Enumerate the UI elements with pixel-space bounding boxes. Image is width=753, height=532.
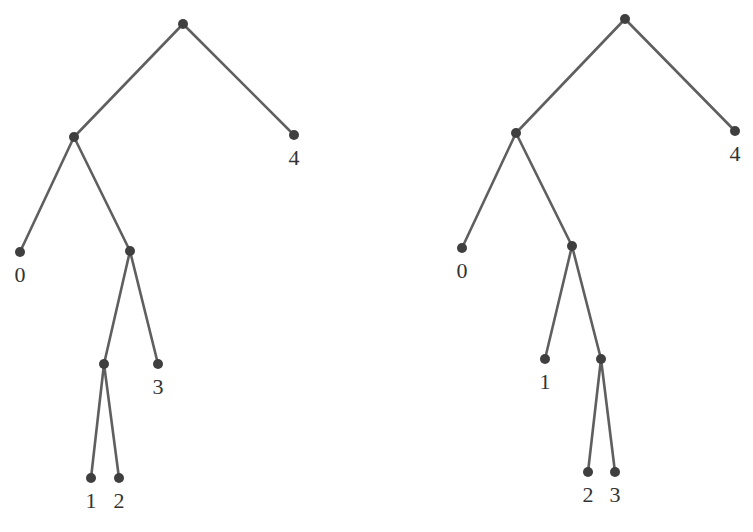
leaf-node <box>289 130 299 140</box>
leaf-label: 0 <box>457 258 468 283</box>
leaf-node <box>114 473 124 483</box>
leaf-label: 3 <box>153 374 164 399</box>
internal-node <box>178 19 188 29</box>
leaf-label: 4 <box>289 145 300 170</box>
left-tree: 40312 <box>15 19 300 513</box>
leaf-node <box>15 247 25 257</box>
leaf-node <box>610 467 620 477</box>
tree-edge <box>588 359 601 472</box>
leaf-node <box>457 243 467 253</box>
tree-edge <box>545 246 572 359</box>
leaf-label: 1 <box>86 488 97 513</box>
internal-node <box>511 128 521 138</box>
leaf-label: 1 <box>540 369 551 394</box>
tree-edge <box>462 133 516 248</box>
tree-edge <box>104 364 119 478</box>
leaf-node <box>540 354 550 364</box>
internal-node <box>596 354 606 364</box>
tree-diagram-canvas: 4031240123 <box>0 0 753 532</box>
tree-edge <box>625 19 735 131</box>
internal-node <box>99 359 109 369</box>
leaf-node <box>583 467 593 477</box>
tree-edge <box>91 364 104 478</box>
tree-edge <box>516 19 625 133</box>
leaf-node <box>86 473 96 483</box>
internal-node <box>69 132 79 142</box>
tree-edge <box>130 251 158 364</box>
internal-node <box>620 14 630 24</box>
tree-edge <box>104 251 130 364</box>
tree-edge <box>20 137 74 252</box>
leaf-label: 4 <box>730 141 741 166</box>
tree-edge <box>74 137 130 251</box>
internal-node <box>567 241 577 251</box>
tree-edge <box>601 359 615 472</box>
internal-node <box>125 246 135 256</box>
leaf-label: 2 <box>583 482 594 507</box>
tree-edge <box>516 133 572 246</box>
tree-edge <box>74 24 183 137</box>
leaf-node <box>730 126 740 136</box>
leaf-label: 3 <box>610 482 621 507</box>
tree-edge <box>183 24 294 135</box>
right-tree: 40123 <box>457 14 741 507</box>
tree-edge <box>572 246 601 359</box>
leaf-label: 0 <box>15 262 26 287</box>
leaf-node <box>153 359 163 369</box>
leaf-label: 2 <box>114 488 125 513</box>
